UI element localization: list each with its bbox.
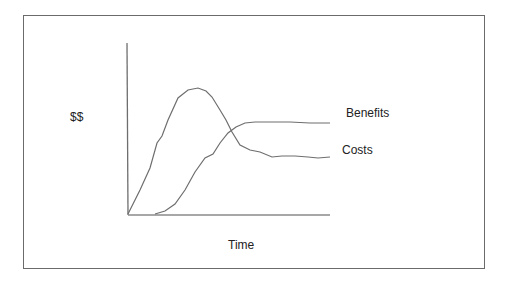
benefits-label: Benefits bbox=[346, 106, 389, 120]
y-axis-label: $$ bbox=[70, 110, 83, 124]
costs-curve bbox=[128, 88, 330, 214]
benefits-curve bbox=[155, 122, 330, 214]
x-axis-label: Time bbox=[228, 238, 254, 252]
costs-label: Costs bbox=[342, 143, 373, 157]
y-axis bbox=[127, 43, 128, 215]
